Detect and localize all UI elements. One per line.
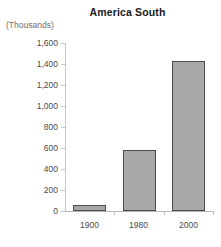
x-axis-tick-label: 1980	[114, 221, 163, 230]
bar-2000	[172, 61, 205, 211]
x-axis-line	[65, 211, 213, 212]
y-axis-tick	[61, 106, 66, 107]
bar-1980	[123, 150, 156, 211]
y-axis-tick-label: 1,400	[37, 60, 58, 69]
y-axis-tick-label: 600	[44, 144, 58, 153]
y-axis-tick-label: 1,600	[37, 39, 58, 48]
y-axis-tick	[61, 64, 66, 65]
y-axis-tick	[61, 85, 66, 86]
y-axis-tick-label: 400	[44, 165, 58, 174]
y-axis-tick	[61, 43, 66, 44]
bar-chart: America South (Thousands) 02004006008001…	[0, 0, 221, 247]
x-axis-tick	[114, 211, 115, 215]
y-axis-tick	[61, 211, 66, 212]
y-axis-tick-label: 0	[53, 207, 58, 216]
x-axis-tick-label: 1900	[65, 221, 114, 230]
x-axis-tick	[213, 211, 214, 215]
bar-1900	[73, 205, 106, 211]
y-axis-tick-label: 200	[44, 186, 58, 195]
y-axis-tick	[61, 169, 66, 170]
x-axis-tick	[164, 211, 165, 215]
plot-area: 02004006008001,0001,2001,4001,600 190019…	[0, 0, 221, 247]
y-axis-tick-label: 800	[44, 123, 58, 132]
y-axis-tick	[61, 190, 66, 191]
y-axis-tick-label: 1,000	[37, 102, 58, 111]
y-axis-tick	[61, 127, 66, 128]
y-axis-tick	[61, 148, 66, 149]
x-axis-tick-label: 2000	[164, 221, 213, 230]
y-axis-tick-label: 1,200	[37, 81, 58, 90]
